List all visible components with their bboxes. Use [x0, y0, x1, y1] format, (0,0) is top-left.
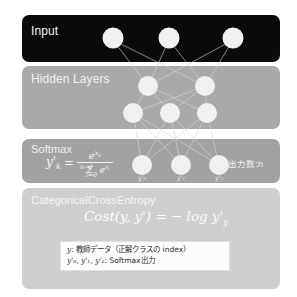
softmax-formula: y'k = exk n−1Σi=0 exi	[46, 150, 113, 176]
cost-formula-rhs: − log y'y	[171, 208, 228, 224]
legend-line-1: y'₀, y'₁, y'₂: Softmax出力	[67, 256, 223, 267]
legend-symbol-1: y'₀, y'₁, y'₂	[67, 256, 104, 265]
softmax-formula-numerator: exk	[85, 150, 105, 162]
softmax-node-label-1: y'₁	[177, 174, 185, 182]
output-count-text: 出力数:n	[228, 157, 263, 169]
softmax-formula-equals: =	[64, 156, 74, 170]
softmax-formula-fraction: exk n−1Σi=0 exi	[77, 150, 113, 176]
legend-text-1: Softmax出力	[109, 256, 154, 265]
cost-label: CategoricalCrossEntropy	[31, 194, 156, 206]
softmax-formula-denominator: n−1Σi=0 exi	[77, 163, 113, 176]
cost-formula: Cost(y, y') = − log y'y	[84, 208, 228, 227]
softmax-node-label-0: y'₀	[138, 174, 146, 182]
hidden-layers-panel: Hidden Layers	[22, 66, 280, 129]
cost-panel: CategoricalCrossEntropy	[22, 188, 280, 289]
hidden-layers-label: Hidden Layers	[31, 72, 110, 86]
softmax-formula-lhs: y'k	[46, 155, 61, 171]
cost-formula-func: Cost	[84, 208, 115, 224]
input-layer-label: Input	[31, 24, 58, 38]
legend-text-0: 教師データ（正解クラスの index）	[76, 245, 190, 254]
network-diagram: Input Hidden Layers Softmax CategoricalC…	[0, 0, 297, 297]
legend-box: y: 教師データ（正解クラスの index） y'₀, y'₁, y'₂: So…	[60, 241, 230, 271]
input-layer-panel: Input	[22, 15, 280, 62]
legend-line-0: y: 教師データ（正解クラスの index）	[67, 245, 223, 256]
cost-formula-equals: =	[155, 208, 166, 224]
cost-formula-args: (y, y')	[115, 208, 151, 224]
softmax-node-label-2: y'₂	[215, 174, 223, 182]
